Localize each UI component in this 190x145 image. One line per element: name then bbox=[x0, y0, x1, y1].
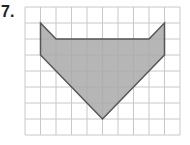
grid-figure bbox=[0, 0, 190, 145]
